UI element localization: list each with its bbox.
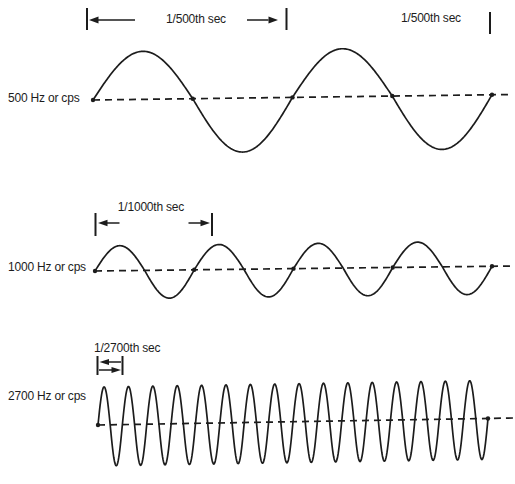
cycle-dot xyxy=(93,269,97,273)
baseline-dashed-500hz xyxy=(93,95,512,101)
cycle-dot xyxy=(192,268,196,272)
period-label-500hz-right: 1/500th sec xyxy=(401,11,461,25)
cycle-dot xyxy=(91,98,95,102)
wave-group-1000hz xyxy=(93,242,515,298)
cycle-dot xyxy=(390,94,394,98)
cycle-dot xyxy=(290,95,294,99)
wave-group-2700hz xyxy=(96,381,514,466)
arrow-right-icon xyxy=(189,220,211,226)
cycle-dot xyxy=(191,96,195,100)
cycle-dot xyxy=(490,93,494,97)
period-label-500hz: 1/500th sec xyxy=(166,12,226,26)
sine-path-500hz xyxy=(93,49,492,152)
period-annotation-500hz-right: 1/500th sec xyxy=(401,11,490,34)
waveform-svg: 1/500th sec 1/500th sec 1/1000th sec xyxy=(0,0,515,484)
wave-label-500hz: 500 Hz or cps xyxy=(8,91,80,105)
cycle-dot xyxy=(291,266,295,270)
sine-path-2700hz xyxy=(98,381,488,466)
arrow-left-icon xyxy=(98,220,120,226)
waves-layer xyxy=(91,49,515,466)
wave-label-1000hz: 1000 Hz or cps xyxy=(8,260,86,274)
period-annotation-500hz: 1/500th sec xyxy=(87,8,287,30)
arrow-right-icon xyxy=(247,17,278,24)
wave-group-500hz xyxy=(91,49,512,152)
arrow-left-icon xyxy=(89,17,135,24)
period-label-2700hz: 1/2700th sec xyxy=(94,341,161,355)
waveform-diagram: 1/500th sec 1/500th sec 1/1000th sec xyxy=(0,0,515,484)
cycle-dot xyxy=(96,423,100,427)
arrow-right-icon xyxy=(99,367,121,373)
wave-label-2700hz: 2700 Hz or cps xyxy=(8,389,86,403)
baseline-dashed-1000hz xyxy=(95,266,515,271)
arrow-left-icon xyxy=(100,359,122,365)
period-annotation-2700hz: 1/2700th sec xyxy=(94,341,161,375)
cycle-dot xyxy=(490,264,494,268)
period-annotation-1000hz: 1/1000th sec xyxy=(96,200,213,236)
cycle-dot xyxy=(486,416,490,420)
cycle-dot xyxy=(391,265,395,269)
period-label-1000hz: 1/1000th sec xyxy=(118,200,185,214)
